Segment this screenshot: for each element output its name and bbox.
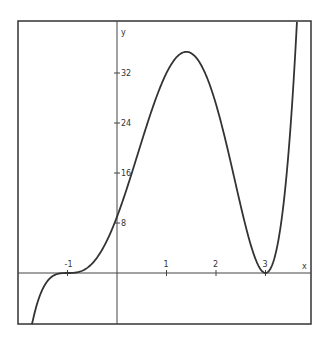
function-curve — [32, 22, 297, 324]
x-tick-label: 2 — [213, 260, 218, 269]
y-tick-label: 32 — [121, 69, 131, 78]
x-tick-label: -1 — [65, 260, 73, 269]
x-tick-label: 3 — [263, 260, 268, 269]
y-axis-label: y — [121, 28, 126, 37]
plot-area: -11238162432 x y — [0, 0, 332, 345]
y-tick-label: 24 — [121, 119, 131, 128]
axis-ticks: -11238162432 — [65, 69, 268, 276]
y-tick-label: 16 — [121, 169, 131, 178]
y-tick-label: 8 — [121, 219, 126, 228]
plot-frame — [18, 21, 311, 324]
x-axis-label: x — [302, 262, 307, 271]
x-tick-label: 1 — [164, 260, 169, 269]
